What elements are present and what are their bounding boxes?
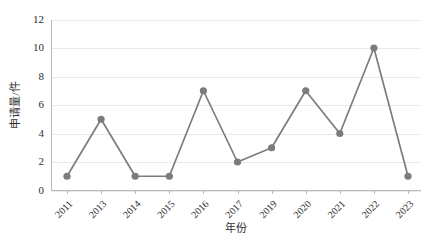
x-tick-label: 2014 — [121, 198, 143, 220]
line-chart: 024681012 201120132014201520162017201920… — [0, 0, 433, 250]
x-tick-label: 2011 — [53, 198, 75, 220]
series-markers-group — [63, 44, 411, 179]
y-tick-label: 4 — [39, 127, 45, 139]
x-tick-label: 2019 — [257, 198, 279, 220]
data-point-marker — [404, 173, 411, 180]
data-point-marker — [234, 158, 241, 165]
y-axis-title: 申请量/件 — [9, 81, 21, 128]
x-tick-label: 2016 — [189, 198, 211, 220]
chart-canvas: 024681012 201120132014201520162017201920… — [0, 0, 433, 250]
x-tick-label: 2015 — [155, 198, 177, 220]
y-tick-label: 12 — [33, 13, 44, 25]
data-point-marker — [132, 173, 139, 180]
x-tick-label: 2023 — [393, 198, 415, 220]
data-point-marker — [336, 130, 343, 137]
series-line-application-count — [67, 48, 408, 176]
data-point-marker — [166, 173, 173, 180]
data-point-marker — [370, 44, 377, 51]
figure-caption — [0, 241, 433, 250]
data-point-marker — [98, 116, 105, 123]
x-tick-label: 2022 — [359, 198, 381, 220]
y-tick-label: 2 — [39, 155, 45, 167]
y-tick-labels-group: 024681012 — [33, 13, 45, 196]
data-point-marker — [302, 87, 309, 94]
x-axis-title: 年份 — [225, 221, 247, 234]
x-tick-label: 2017 — [223, 198, 245, 220]
data-point-marker — [200, 87, 207, 94]
x-tick-labels-group: 2011201320142015201620172019202020212022… — [53, 198, 416, 220]
x-tick-label: 2013 — [87, 198, 109, 220]
y-tick-label: 0 — [39, 184, 45, 196]
gridlines-group — [52, 21, 421, 192]
x-tick-label: 2021 — [325, 198, 347, 220]
data-point-marker — [268, 144, 275, 151]
x-tick-label: 2020 — [291, 198, 313, 220]
y-tick-label: 8 — [39, 70, 45, 82]
y-tick-label: 10 — [33, 41, 45, 53]
y-tick-label: 6 — [39, 98, 45, 110]
data-point-marker — [63, 173, 70, 180]
